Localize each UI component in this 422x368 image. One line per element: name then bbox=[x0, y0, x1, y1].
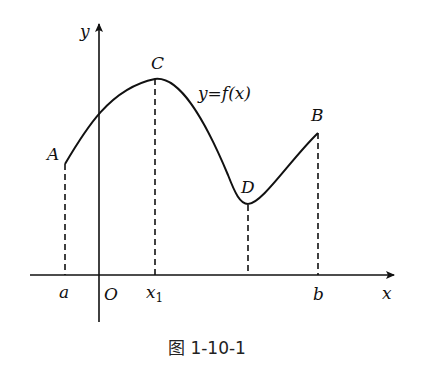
function-graph-figure: y x O A C D B y=f(x) a x1 b 图 1-10-1 bbox=[0, 0, 422, 368]
point-label-a: A bbox=[45, 144, 59, 164]
function-curve bbox=[65, 79, 318, 204]
tick-label-a: a bbox=[59, 282, 69, 302]
function-label: y=f(x) bbox=[197, 83, 251, 103]
figure-caption: 图 1-10-1 bbox=[168, 338, 246, 358]
tick-label-x1: x1 bbox=[146, 282, 163, 305]
point-label-b: B bbox=[310, 105, 324, 125]
point-label-c: C bbox=[151, 53, 164, 73]
y-axis-label: y bbox=[79, 21, 90, 41]
tick-label-b: b bbox=[313, 284, 324, 304]
x-axis-label: x bbox=[382, 283, 392, 303]
origin-label: O bbox=[104, 284, 118, 304]
point-label-d: D bbox=[240, 177, 255, 197]
